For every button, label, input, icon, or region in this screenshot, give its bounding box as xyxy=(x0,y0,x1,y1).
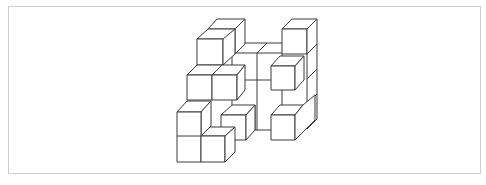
lower-right-cube xyxy=(271,95,315,140)
left-middle-cubes xyxy=(187,65,245,100)
top-left-column xyxy=(197,19,245,65)
middle-right-cube xyxy=(271,56,304,90)
cube-structure-drawing xyxy=(0,0,486,185)
